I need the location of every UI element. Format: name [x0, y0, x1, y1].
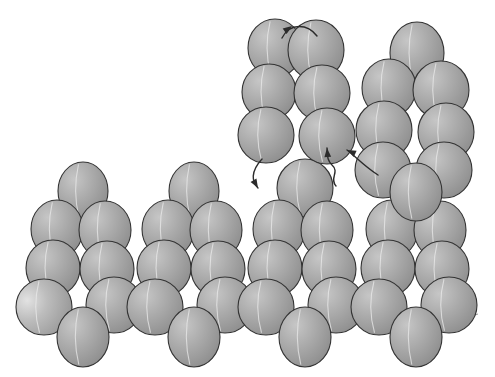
- sphere: [238, 107, 294, 163]
- sphere: [390, 307, 442, 367]
- arrow-head: [251, 179, 261, 190]
- sphere: [390, 163, 442, 221]
- cluster-bottom-cluster-3: [238, 159, 364, 367]
- sphere: [168, 307, 220, 367]
- cluster-bottom-cluster-4: [351, 200, 477, 367]
- cluster-bottom-cluster-2: [127, 162, 253, 367]
- sphere: [57, 307, 109, 367]
- sphere: [279, 307, 331, 367]
- cluster-bottom-cluster-1: [16, 162, 142, 367]
- sphere-layer: [16, 19, 477, 367]
- cluster-right-tall-cluster: [355, 22, 474, 221]
- reaction-arrow-arrow-left-descend: [251, 159, 262, 190]
- sphere-packing-diagram: [0, 0, 495, 377]
- cluster-top-center-cluster: [238, 19, 355, 164]
- figure-root: [0, 0, 495, 377]
